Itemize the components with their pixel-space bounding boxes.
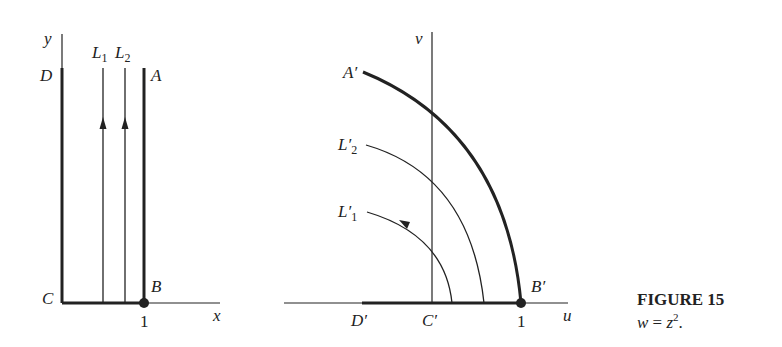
- curve-L2': [366, 145, 484, 303]
- tick-1-label: 1: [517, 313, 526, 330]
- L2'-label: L′2: [338, 136, 357, 156]
- L1'-label: L′1: [338, 203, 357, 223]
- point-D-label: D: [40, 67, 52, 84]
- w-plane: [284, 32, 568, 308]
- point-B-label: B: [151, 278, 161, 295]
- figure-title: FIGURE 15: [637, 290, 724, 310]
- arrow-up-icon: [122, 117, 129, 129]
- x-axis-label: x: [213, 307, 221, 324]
- u-axis-label: u: [563, 307, 572, 324]
- v-axis-label: v: [415, 30, 423, 47]
- tick-1-label: 1: [140, 313, 149, 330]
- point-D'-label: D′: [351, 312, 367, 329]
- figure-caption: w = z2.: [637, 311, 683, 333]
- arrow-up-icon: [100, 117, 107, 129]
- y-axis-label: y: [44, 30, 52, 47]
- point-A-label: A: [151, 67, 161, 84]
- z-plane: [62, 34, 220, 308]
- point-A'-label: A′: [343, 64, 357, 81]
- L1-label: L1: [92, 44, 107, 64]
- point-C'-label: C′: [422, 312, 437, 329]
- curve-L1': [367, 212, 452, 303]
- point-B': [516, 298, 526, 308]
- L2-label: L2: [115, 44, 130, 64]
- point-C-label: C: [42, 290, 53, 307]
- point-B: [139, 298, 149, 308]
- point-B'-label: B′: [531, 278, 545, 295]
